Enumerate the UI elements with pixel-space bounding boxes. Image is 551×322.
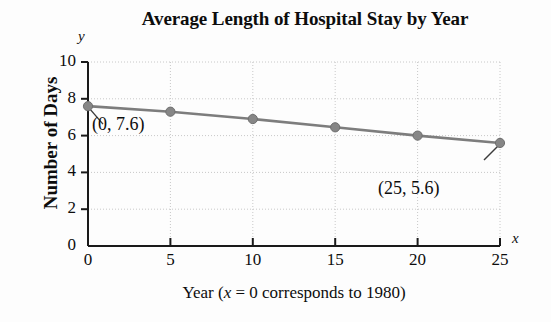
data-point-annotation-start: (0, 7.6) [92, 114, 145, 135]
plot-area [0, 0, 551, 322]
x-tick-label: 15 [315, 250, 355, 270]
x-tick-label: 20 [398, 250, 438, 270]
y-tick-label: 6 [42, 125, 76, 145]
data-line [88, 106, 500, 143]
annotation-leader-lines [90, 109, 498, 160]
x-axis-title-suffix: = 0 corresponds to 1980) [231, 283, 405, 302]
y-tick-label: 10 [42, 51, 76, 71]
data-point-annotation-end: (25, 5.6) [378, 178, 440, 199]
x-tick-label: 10 [233, 250, 273, 270]
y-tick-label: 2 [42, 198, 76, 218]
data-markers [83, 102, 504, 148]
y-tick-label: 4 [42, 161, 76, 181]
y-tick-label: 8 [42, 88, 76, 108]
chart-figure: Average Length of Hospital Stay by Year … [0, 0, 551, 322]
gridlines [88, 62, 500, 246]
x-tick-label: 0 [68, 250, 108, 270]
x-axis-title-prefix: Year ( [182, 283, 223, 302]
x-tick-label: 25 [480, 250, 520, 270]
axis-ticks [81, 62, 500, 246]
x-tick-label: 5 [150, 250, 190, 270]
axis-lines [88, 62, 500, 246]
x-axis-title: Year (x = 0 corresponds to 1980) [88, 283, 500, 303]
